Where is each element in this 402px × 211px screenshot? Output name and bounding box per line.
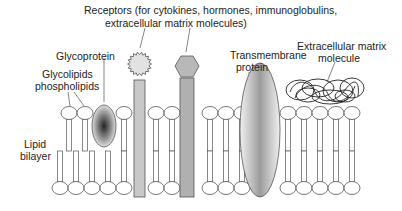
glycolipids-label-line1: Glycolipids (42, 68, 93, 80)
ecm-label-line2: molecule (318, 52, 360, 64)
leader-lines (68, 28, 335, 106)
extracellular-matrix-shape (286, 78, 364, 104)
receptor-2-hexagon (175, 56, 199, 77)
receptor-1-starburst (128, 52, 152, 76)
glycoprotein-shape (92, 105, 116, 147)
transmembrane-protein-shape (240, 63, 280, 197)
transmembrane-label-line1: Transmembrane (230, 49, 307, 61)
membrane-diagram (0, 0, 402, 211)
glycoprotein-label: Glycoprotein (56, 50, 115, 62)
receptor-1-stalk (134, 80, 145, 197)
lipid-bilayer-label-line1: Lipid (24, 138, 46, 150)
transmembrane-label-line2: protein (236, 61, 268, 73)
receptors-label-line2: extracellular matrix molecules) (105, 17, 247, 29)
receptors-label-line1: Receptors (for cytokines, hormones, immu… (84, 4, 337, 16)
lipid-bilayer-label-line2: bilayer (20, 150, 51, 162)
receptor-2-stalk (180, 78, 194, 197)
glycolipids-label-line2: phospholipids (35, 80, 99, 92)
ecm-label-line1: Extracellular matrix (297, 40, 386, 52)
